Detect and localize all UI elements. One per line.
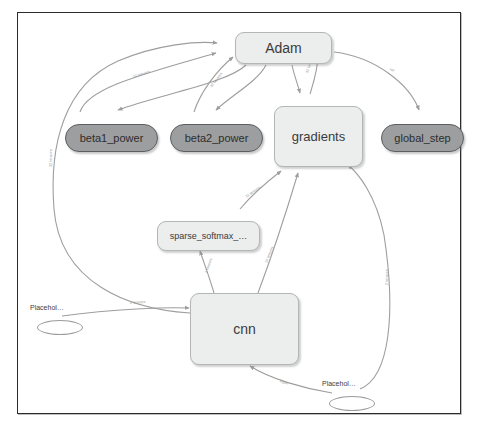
graph-node-beta1-power[interactable]: beta1_power bbox=[65, 124, 158, 152]
edge-sparse_softmax-gradients bbox=[240, 171, 281, 209]
edge-cnn-gradients bbox=[258, 173, 298, 293]
graph-node-beta1-power-label: beta1_power bbox=[80, 132, 144, 144]
placeholder-2-ellipse bbox=[329, 396, 375, 411]
graph-node-beta2-power-label: beta2_power bbox=[185, 132, 249, 144]
edge-placeholder_2-cnn bbox=[250, 366, 332, 393]
graph-node-placeholder-2-label: Placehol… bbox=[322, 380, 356, 387]
edge-beta2_power-adam bbox=[194, 57, 233, 112]
graph-node-sparse-softmax-label: sparse_softmax_… bbox=[170, 231, 248, 241]
graph-node-placeholder-1[interactable]: Placehol… bbox=[30, 301, 90, 337]
graph-node-placeholder-1-label: Placehol… bbox=[30, 304, 64, 311]
edge-adam-beta1_power bbox=[118, 65, 246, 110]
graph-node-adam-label: Adam bbox=[265, 40, 302, 56]
graph-node-gradients[interactable]: gradients bbox=[274, 106, 363, 167]
graph-node-placeholder-2[interactable]: Placehol… bbox=[322, 377, 382, 413]
edge-adam-gradients bbox=[292, 65, 300, 93]
graph-frame: 32 tensors 32 tensors 32 tensors ref 32 … bbox=[17, 12, 461, 414]
graph-node-cnn[interactable]: cnn bbox=[190, 293, 299, 365]
graph-node-gradients-label: gradients bbox=[292, 129, 345, 144]
graph-node-global-step-label: global_step bbox=[394, 132, 450, 144]
edge-cnn-sparse_softmax bbox=[200, 251, 214, 293]
graph-node-cnn-label: cnn bbox=[233, 321, 256, 337]
graph-node-adam[interactable]: Adam bbox=[235, 32, 332, 64]
screenshot-root: 32 tensors 32 tensors 32 tensors ref 32 … bbox=[0, 0, 504, 442]
graph-node-sparse-softmax[interactable]: sparse_softmax_… bbox=[157, 221, 260, 251]
graph-canvas[interactable]: 32 tensors 32 tensors 32 tensors ref 32 … bbox=[18, 13, 460, 413]
graph-node-global-step[interactable]: global_step bbox=[381, 124, 464, 152]
graph-node-beta2-power[interactable]: beta2_power bbox=[170, 124, 263, 152]
edge-placeholder_2-gradients bbox=[348, 165, 390, 389]
edge-cnn-adam bbox=[53, 42, 217, 313]
placeholder-1-ellipse bbox=[37, 320, 83, 335]
edge-beta1_power-adam bbox=[80, 53, 216, 112]
edge-adam-beta2_power bbox=[216, 65, 266, 110]
edge-adam-global_step bbox=[334, 52, 419, 110]
